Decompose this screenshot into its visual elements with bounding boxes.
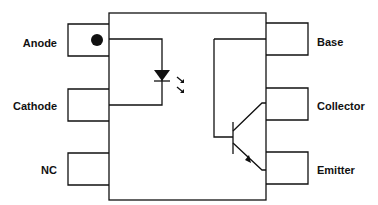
transistor-collector [233, 103, 266, 131]
package-body [109, 13, 266, 200]
pin-base [266, 23, 308, 55]
pin-collector [266, 88, 308, 120]
led-triangle-icon [154, 70, 170, 81]
pin-cathode [68, 89, 109, 121]
label-nc: NC [0, 164, 57, 176]
label-base: Base [317, 36, 343, 48]
label-anode: Anode [0, 37, 57, 49]
pin-nc [68, 153, 109, 185]
base-wire [214, 39, 233, 137]
transistor-emitter [233, 143, 266, 170]
led-wiring [109, 39, 162, 105]
label-cathode: Cathode [0, 100, 57, 112]
pin1-marker-dot [91, 34, 103, 46]
pin-emitter [266, 152, 308, 184]
label-emitter: Emitter [317, 164, 355, 176]
label-collector: Collector [317, 100, 365, 112]
